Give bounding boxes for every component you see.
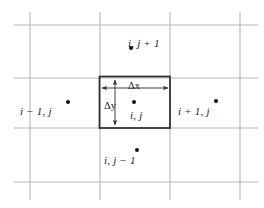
grid-diagram-svg <box>0 0 264 208</box>
center-node-label: i, j <box>130 110 142 121</box>
west-node-dot <box>66 100 70 104</box>
south-node-label: i, j − 1 <box>104 155 136 166</box>
east-node-label: i + 1, j <box>178 106 210 117</box>
west-node-label: i − 1, j <box>20 106 52 117</box>
figure-canvas: i, j + 1 i − 1, j i, j i + 1, j i, j − 1… <box>0 0 264 208</box>
east-node-dot <box>214 99 218 103</box>
center-node-dot <box>132 100 136 104</box>
north-node-label: i, j + 1 <box>128 38 160 49</box>
delta-x-label: Δx <box>128 81 140 92</box>
south-node-dot <box>135 148 139 152</box>
delta-y-label: Δy <box>104 101 116 112</box>
